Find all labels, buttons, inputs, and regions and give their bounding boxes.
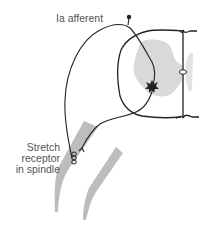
diagram-graphic <box>0 0 207 240</box>
ia-afferent-label: Ia afferent <box>56 13 103 24</box>
gray-matter <box>133 40 193 97</box>
stretch-receptor-label: Stretch receptor in spindle <box>16 142 60 175</box>
receptor-label-line-3: in spindle <box>16 164 60 175</box>
motor-efferent-fiber <box>79 88 153 152</box>
dorsal-root-ganglion <box>127 15 131 19</box>
central-canal <box>180 70 187 75</box>
stretch-reflex-diagram: Ia afferent Stretch receptor in spindle <box>0 0 207 240</box>
